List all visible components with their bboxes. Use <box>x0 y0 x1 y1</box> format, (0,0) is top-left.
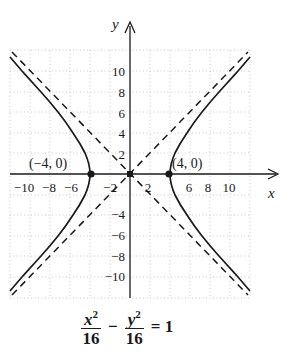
y-tick: 8 <box>119 85 126 100</box>
x-tick: 10 <box>223 180 236 195</box>
vertex-left-marker <box>87 170 94 177</box>
x-tick: 2 <box>145 180 152 195</box>
fraction-x-denominator: 16 <box>83 329 100 348</box>
x-tick: −8 <box>42 180 56 195</box>
y-axis <box>125 22 135 298</box>
fraction-y-numerator: y2 <box>125 306 144 329</box>
x-tick: 8 <box>205 180 212 195</box>
exp: 2 <box>135 308 141 320</box>
vertex-left-label: (−4, 0) <box>29 156 68 172</box>
minus-sign: − <box>108 317 118 337</box>
y-tick: 6 <box>119 106 126 121</box>
y-tick: 10 <box>112 64 125 79</box>
vertex-right-label: (4, 0) <box>172 156 203 172</box>
x-tick: −2 <box>103 180 117 195</box>
y-tick: −6 <box>111 228 125 243</box>
y-tick: −10 <box>105 269 125 284</box>
y-tick: −4 <box>111 207 125 222</box>
y-tick: 4 <box>119 126 126 141</box>
y-axis-label: y <box>110 16 119 32</box>
x-tick: 6 <box>186 180 193 195</box>
y-tick: −8 <box>111 249 125 264</box>
fraction-x-numerator: x2 <box>81 306 101 329</box>
var-x: x <box>84 310 93 329</box>
x-tick: −10 <box>14 180 34 195</box>
equation: x2 16 − y2 16 = 1 <box>78 306 177 348</box>
x-tick: −6 <box>64 180 78 195</box>
fraction-x: x2 16 <box>81 306 101 348</box>
center-marker <box>127 171 133 177</box>
equals-one: = 1 <box>151 317 173 337</box>
x-tick-labels: −10 −8 −6 −2 2 6 8 10 <box>14 180 236 195</box>
fraction-y-denominator: 16 <box>126 329 143 348</box>
y-tick: 2 <box>119 147 126 162</box>
vertex-right-marker <box>165 170 172 177</box>
x-axis-label: x <box>267 185 275 201</box>
exp: 2 <box>93 308 99 320</box>
fraction-y: y2 16 <box>125 306 144 348</box>
